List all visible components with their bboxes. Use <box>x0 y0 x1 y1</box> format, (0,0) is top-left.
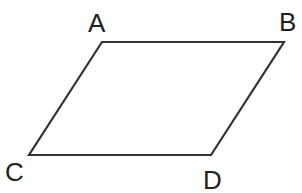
vertex-label-c: C <box>5 157 24 187</box>
vertex-label-d: D <box>203 165 222 193</box>
vertex-label-a: A <box>88 8 106 38</box>
parallelogram-diagram: A B D C <box>0 0 302 193</box>
parallelogram-shape <box>29 42 284 155</box>
vertex-label-b: B <box>279 7 296 37</box>
